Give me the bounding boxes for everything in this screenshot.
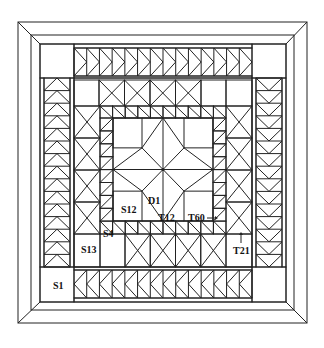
label-s1: S1 [53,280,64,291]
label-d1: D1 [148,195,160,206]
label-t12: T12 [158,212,175,223]
flying-geese-top-border [74,44,252,78]
label-t21: T21 [233,245,250,256]
label-s12: S12 [121,204,137,215]
flying-geese-right-border [252,78,286,267]
quilt-diagram: S1 S4 S12 S13 D1 T12 T60 T21 [0,0,324,348]
flying-geese-left-border [40,78,74,267]
label-t60: T60 [188,212,205,223]
label-s4: S4 [103,228,114,239]
flying-geese-bottom-border [74,267,252,302]
label-s13: S13 [81,244,97,255]
